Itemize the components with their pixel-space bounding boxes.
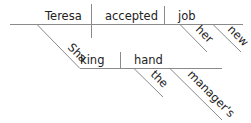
- gerund-object-word: hand: [134, 53, 163, 67]
- sentence-diagram: Teresa accepted job her new Sha king han…: [0, 0, 251, 123]
- verb-word: accepted: [105, 9, 158, 23]
- new-word: new: [225, 22, 251, 49]
- subject-word: Teresa: [44, 9, 82, 23]
- gerund-word: king: [80, 53, 104, 67]
- managers-word: manager's: [185, 67, 238, 120]
- her-word: her: [193, 22, 217, 46]
- object-word: job: [177, 9, 196, 23]
- the-word: the: [148, 67, 171, 90]
